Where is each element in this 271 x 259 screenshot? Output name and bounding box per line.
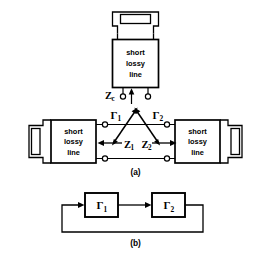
figure-container: short lossy line Z c [0,0,271,259]
top-block-line3: line [129,70,142,79]
top-block-line1: short [126,48,145,57]
terminal-top-right [145,94,150,99]
block-gamma2-subscript: 2 [171,205,175,214]
part-b-group: Γ 1 Γ 2 (b) [62,193,203,248]
terminal-upper-right [164,122,169,127]
label-zc-subscript: c [111,95,115,103]
label-z1-subscript: 1 [131,144,135,152]
caption-b: (b) [130,238,141,248]
label-gamma1: Γ [111,109,118,121]
left-block-line3: line [67,148,80,157]
top-block-line2: lossy [126,59,146,68]
left-block-line2: lossy [64,137,84,146]
label-z2-subscript: 2 [148,144,152,152]
label-gamma2: Γ [153,109,160,121]
arrow-gamma1-to-gamma2 [118,202,152,208]
arrow-up-zc [129,88,135,104]
block-gamma1-symbol: Γ [97,199,104,211]
label-gamma1-subscript: 1 [118,114,122,123]
right-block-line3: line [191,148,204,157]
arrow-z1 [98,140,123,146]
label-gamma2-subscript: 2 [160,114,164,123]
block-gamma1-subscript: 1 [104,205,108,214]
terminal-upper-left [102,122,107,127]
left-block-line1: short [64,127,83,136]
caption-a: (a) [130,167,140,177]
right-block-line2: lossy [188,137,208,146]
right-connector-inner-rect [231,129,240,155]
terminal-lower-left [102,156,107,161]
part-a-group: short lossy line Z c [29,12,242,177]
terminal-lower-right [164,156,169,161]
left-connector-inner-rect [32,129,41,155]
figure-svg: short lossy line Z c [0,0,271,259]
terminal-top-left [120,94,125,99]
top-connector-inner-rect [121,15,151,24]
right-block-line1: short [188,127,207,136]
block-gamma2-symbol: Γ [164,199,171,211]
